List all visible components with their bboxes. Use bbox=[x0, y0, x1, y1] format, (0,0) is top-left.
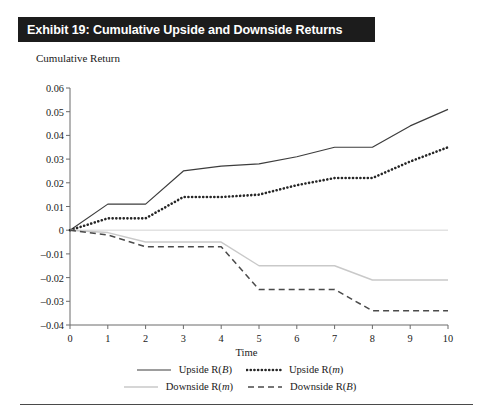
legend-label: Downside R(m) bbox=[166, 381, 233, 392]
series-line-3 bbox=[70, 230, 448, 311]
footer-divider bbox=[20, 404, 473, 405]
series-line-2 bbox=[70, 230, 448, 280]
chart-legend: Upside R(B)Upside R(m)Downside R(m)Downs… bbox=[0, 361, 493, 395]
legend-line-swatch-icon bbox=[247, 382, 283, 392]
series-line-1 bbox=[70, 147, 448, 230]
chart-container: Cumulative Return 0.060.050.040.030.020.… bbox=[0, 0, 493, 415]
legend-row: Upside R(B)Upside R(m) bbox=[0, 361, 493, 378]
legend-entry[interactable]: Downside R(B) bbox=[247, 381, 370, 392]
legend-entry[interactable]: Downside R(m) bbox=[123, 381, 247, 392]
legend-entry[interactable]: Upside R(B) bbox=[136, 364, 246, 375]
legend-label: Upside R(m) bbox=[289, 364, 343, 375]
legend-row: Downside R(m)Downside R(B) bbox=[0, 378, 493, 395]
legend-line-swatch-icon bbox=[123, 382, 159, 392]
legend-line-swatch-icon bbox=[246, 365, 282, 375]
legend-label: Upside R(B) bbox=[179, 364, 232, 375]
legend-entry[interactable]: Upside R(m) bbox=[246, 364, 357, 375]
legend-label: Downside R(B) bbox=[290, 381, 356, 392]
legend-line-swatch-icon bbox=[136, 365, 172, 375]
x-axis-title: Time bbox=[0, 347, 493, 358]
